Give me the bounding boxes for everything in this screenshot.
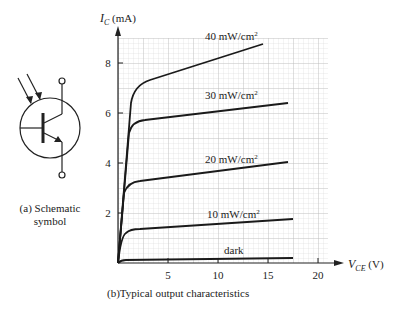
x-tick: 5: [165, 269, 171, 281]
y-tick: 2: [105, 207, 111, 219]
y-tick: 4: [105, 157, 111, 169]
chart-caption: (b)Typical output characteristics: [107, 287, 249, 300]
schematic-caption-2: symbol: [34, 215, 66, 227]
y-tick: 8: [105, 57, 111, 69]
figure: (a) Schematic symbol 5 10 15 20 2 4 6 8 …: [0, 0, 400, 314]
curve-label-30: 30 mW/cm2: [205, 89, 258, 101]
y-axis-arrow-icon: [115, 26, 121, 36]
x-axis-label: VCE (V): [348, 257, 384, 273]
schematic-caption: (a) Schematic: [20, 202, 81, 215]
phototransistor-schematic-icon: [18, 74, 80, 178]
x-tick: 10: [213, 269, 225, 281]
curve-label-10: 10 mW/cm2: [207, 208, 260, 220]
curve-label-20: 20 mW/cm2: [205, 153, 258, 165]
y-tick: 6: [105, 107, 111, 119]
curve-label-dark: dark: [224, 244, 244, 256]
x-tick: 15: [263, 269, 275, 281]
x-axis-arrow-icon: [334, 260, 344, 266]
curve-label-40: 40 mW/cm2: [205, 30, 258, 42]
x-tick: 20: [313, 269, 325, 281]
y-axis-label: IC (mA): [99, 11, 136, 27]
